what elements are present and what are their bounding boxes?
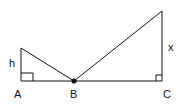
label-c: C — [163, 88, 171, 100]
geometry-diagram: h x A B C — [0, 0, 184, 106]
label-b: B — [70, 88, 77, 100]
label-x: x — [168, 41, 174, 53]
left-hypotenuse — [21, 48, 74, 81]
point-b-dot — [72, 79, 77, 84]
right-angle-marker-a — [21, 73, 33, 81]
right-angle-marker-c — [156, 75, 162, 81]
label-a: A — [14, 88, 22, 100]
right-hypotenuse — [74, 11, 162, 81]
label-h: h — [9, 57, 15, 69]
